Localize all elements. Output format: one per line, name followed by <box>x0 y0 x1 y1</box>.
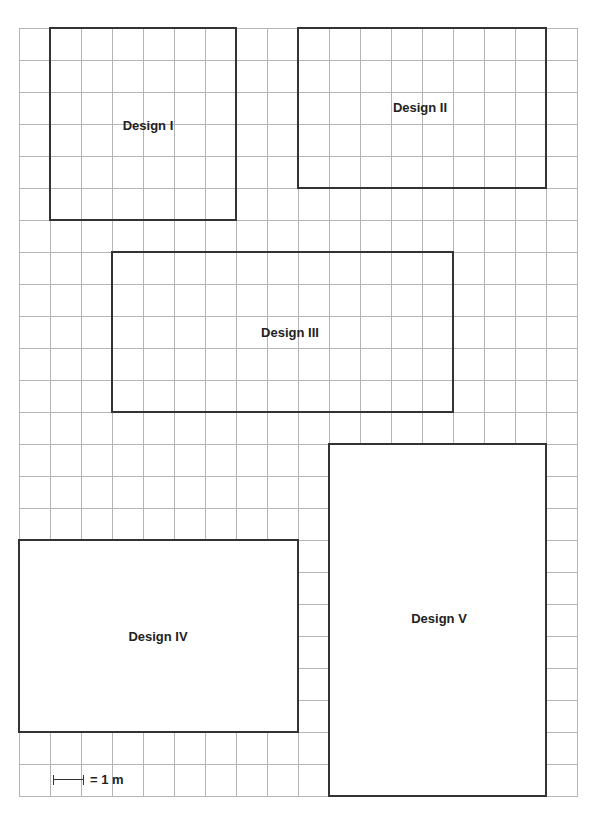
design-1-label: Design I <box>122 119 175 133</box>
design-4-label: Design IV <box>127 630 188 644</box>
design-2-label: Design II <box>392 101 448 115</box>
design-3-label: Design III <box>260 326 320 340</box>
scale-legend: = 1 m <box>53 772 124 787</box>
design-5-label: Design V <box>410 612 468 626</box>
scale-bar-icon <box>53 775 84 785</box>
scale-label: = 1 m <box>90 772 124 787</box>
floor-plan-diagram: Design I Design II Design III Design IV … <box>0 0 597 818</box>
